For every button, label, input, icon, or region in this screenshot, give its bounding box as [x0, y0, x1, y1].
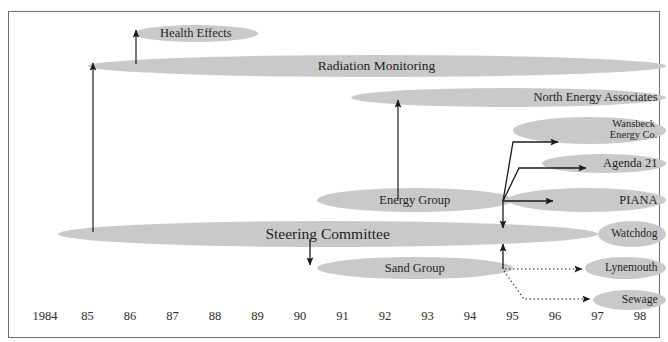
bar-label: Agenda 21: [603, 157, 658, 170]
year-tick-97: 97: [591, 309, 604, 324]
year-tick-94: 94: [464, 309, 477, 324]
bar-health-effects[interactable]: Health Effects: [134, 25, 257, 42]
bar-sand-group[interactable]: Sand Group: [317, 257, 513, 279]
year-tick-96: 96: [549, 309, 562, 324]
year-tick-1984: 1984: [33, 309, 58, 324]
bar-label: Sand Group: [385, 262, 445, 275]
bar-label: WansbeckEnergy Co.: [610, 119, 658, 141]
bar-radiation-monitoring[interactable]: Radiation Monitoring: [88, 55, 666, 77]
bar-label: Health Effects: [160, 27, 232, 40]
timeline-diagram: Health EffectsRadiation MonitoringNorth …: [0, 0, 668, 342]
year-tick-95: 95: [506, 309, 519, 324]
bar-label-line2: Energy Co.: [610, 130, 658, 141]
bar-north-energy-associates[interactable]: North Energy Associates: [351, 88, 666, 107]
clipped-caption: [150, 0, 510, 9]
bar-label: Watchdog: [611, 228, 657, 240]
year-tick-93: 93: [421, 309, 434, 324]
year-tick-85: 85: [81, 309, 94, 324]
bar-label: Lynemouth: [605, 262, 657, 274]
year-tick-90: 90: [294, 309, 307, 324]
bar-label: Energy Group: [379, 194, 450, 207]
bar-wansbeck-energy-co[interactable]: WansbeckEnergy Co.: [513, 117, 666, 144]
bar-label: North Energy Associates: [533, 91, 657, 104]
year-tick-92: 92: [379, 309, 392, 324]
year-tick-86: 86: [124, 309, 137, 324]
bar-label: Sewage: [622, 294, 658, 306]
year-tick-87: 87: [166, 309, 179, 324]
year-axis: 19848586878889909192939495969798: [9, 305, 659, 337]
year-tick-88: 88: [209, 309, 222, 324]
year-tick-98: 98: [634, 309, 647, 324]
bar-label: PIANA: [619, 194, 657, 207]
bar-piana[interactable]: PIANA: [508, 188, 665, 212]
bar-label: Radiation Monitoring: [318, 59, 435, 73]
bar-agenda-21[interactable]: Agenda 21: [542, 154, 665, 173]
bar-watchdog[interactable]: Watchdog: [598, 221, 666, 247]
bar-label: Steering Committee: [265, 226, 389, 242]
year-tick-89: 89: [251, 309, 264, 324]
bar-lynemouth[interactable]: Lynemouth: [585, 257, 666, 279]
bar-steering-committee[interactable]: Steering Committee: [58, 221, 598, 247]
year-tick-91: 91: [336, 309, 349, 324]
bar-energy-group[interactable]: Energy Group: [317, 188, 513, 212]
